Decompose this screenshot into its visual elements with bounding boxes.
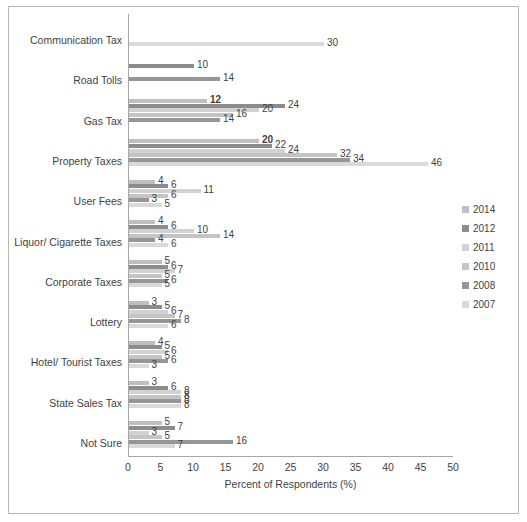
category-label: Gas Tax (84, 115, 122, 127)
legend-swatch-icon (462, 244, 469, 251)
bar-value-label: 30 (327, 38, 338, 48)
legend-label: 2008 (473, 281, 495, 291)
bar-value-label: 7 (178, 422, 184, 432)
plot-area: 3010141224201614202224323446461163546101… (128, 14, 453, 457)
category-label: Hotel/ Tourist Taxes (31, 356, 122, 368)
bar-2014-7 (129, 301, 149, 305)
bar-group: 1014 (129, 59, 453, 86)
x-tick-label: 35 (350, 461, 362, 473)
legend-label: 2007 (473, 300, 495, 310)
bar-value-label: 14 (223, 73, 234, 83)
bar-group: 202224323446 (129, 139, 453, 166)
bar-value-label: 10 (197, 60, 208, 70)
bar-2008-8 (129, 359, 168, 363)
category-label: Not Sure (81, 437, 122, 449)
legend-item-2007[interactable]: 2007 (462, 295, 514, 314)
bar-2008-2 (129, 118, 220, 122)
chart-legend: 201420122011201020082007 (462, 200, 514, 314)
bar-2014-5 (129, 220, 155, 224)
bar-2007-8 (129, 364, 149, 368)
bar-value-label: 6 (171, 190, 177, 200)
x-tick-label: 5 (158, 461, 164, 473)
bar-2012-1 (129, 64, 194, 68)
bar-2011-4 (129, 189, 201, 193)
bar-2011-8 (129, 350, 168, 354)
legend-item-2010[interactable]: 2010 (462, 257, 514, 276)
bar-group: 30 (129, 19, 453, 46)
x-tick-label: 10 (187, 461, 199, 473)
bar-2012-9 (129, 386, 168, 390)
category-label: Road Tolls (73, 74, 122, 86)
bar-value-label: 14 (223, 230, 234, 240)
bar-2012-5 (129, 225, 168, 229)
bar-2010-10 (129, 435, 162, 439)
bar-value-label: 5 (165, 199, 171, 209)
legend-swatch-icon (462, 206, 469, 213)
bar-value-label: 8 (184, 315, 190, 325)
legend-swatch-icon (462, 282, 469, 289)
x-tick-label: 30 (317, 461, 329, 473)
bar-2014-2 (129, 99, 207, 103)
bar-group: 356786 (129, 301, 453, 328)
legend-label: 2010 (473, 262, 495, 272)
bar-2010-4 (129, 194, 168, 198)
bar-2012-8 (129, 345, 162, 349)
legend-item-2008[interactable]: 2008 (462, 276, 514, 295)
category-label: Corporate Taxes (45, 276, 122, 288)
bar-2010-9 (129, 395, 181, 399)
bar-2014-8 (129, 341, 155, 345)
x-tick-label: 45 (415, 461, 427, 473)
bar-2008-6 (129, 279, 168, 283)
bar-value-label: 6 (171, 275, 177, 285)
bar-2014-3 (129, 139, 259, 143)
bar-value-label: 16 (236, 436, 247, 446)
bar-2012-4 (129, 184, 168, 188)
bar-value-label: 46 (431, 158, 442, 168)
bar-value-label: 5 (165, 279, 171, 289)
bar-group: 4611635 (129, 180, 453, 207)
bar-2007-4 (129, 203, 162, 207)
bar-2007-10 (129, 444, 175, 448)
bar-2010-2 (129, 113, 233, 117)
bar-value-label: 6 (171, 320, 177, 330)
y-axis-category-labels: Communication TaxRoad TollsGas TaxProper… (8, 14, 126, 457)
category-label: Communication Tax (30, 34, 122, 46)
x-tick-label: 25 (285, 461, 297, 473)
legend-label: 2011 (473, 243, 495, 253)
legend-label: 2014 (473, 205, 495, 215)
bar-2011-9 (129, 390, 181, 394)
legend-item-2011[interactable]: 2011 (462, 238, 514, 257)
bar-group: 567565 (129, 260, 453, 287)
bar-2007-6 (129, 283, 162, 287)
bar-value-label: 20 (262, 104, 273, 114)
bar-2010-6 (129, 274, 162, 278)
bar-2014-9 (129, 381, 149, 385)
x-tick-label: 50 (447, 461, 459, 473)
bar-value-label: 6 (171, 239, 177, 249)
legend-item-2014[interactable]: 2014 (462, 200, 514, 219)
legend-item-2012[interactable]: 2012 (462, 219, 514, 238)
bar-2007-9 (129, 404, 181, 408)
bar-group: 456563 (129, 341, 453, 368)
bar-2007-5 (129, 243, 168, 247)
bar-2011-3 (129, 149, 285, 153)
bar-group: 368888 (129, 381, 453, 408)
bar-2008-5 (129, 238, 155, 242)
bar-group: 1224201614 (129, 99, 453, 126)
bar-value-label: 7 (178, 440, 184, 450)
x-tick-label: 20 (252, 461, 264, 473)
bar-value-label: 8 (184, 400, 190, 410)
legend-swatch-icon (462, 301, 469, 308)
bar-2008-4 (129, 198, 149, 202)
bar-value-label: 16 (236, 109, 247, 119)
bar-2007-0 (129, 42, 324, 46)
category-label: Lottery (90, 316, 122, 328)
bar-value-label: 6 (171, 355, 177, 365)
bar-2010-8 (129, 355, 162, 359)
bar-value-label: 11 (204, 185, 214, 195)
bar-value-label: 3 (152, 360, 158, 370)
bar-2008-1 (129, 77, 220, 81)
category-label: Property Taxes (52, 155, 122, 167)
x-tick-label: 40 (382, 461, 394, 473)
bar-2007-3 (129, 162, 428, 166)
